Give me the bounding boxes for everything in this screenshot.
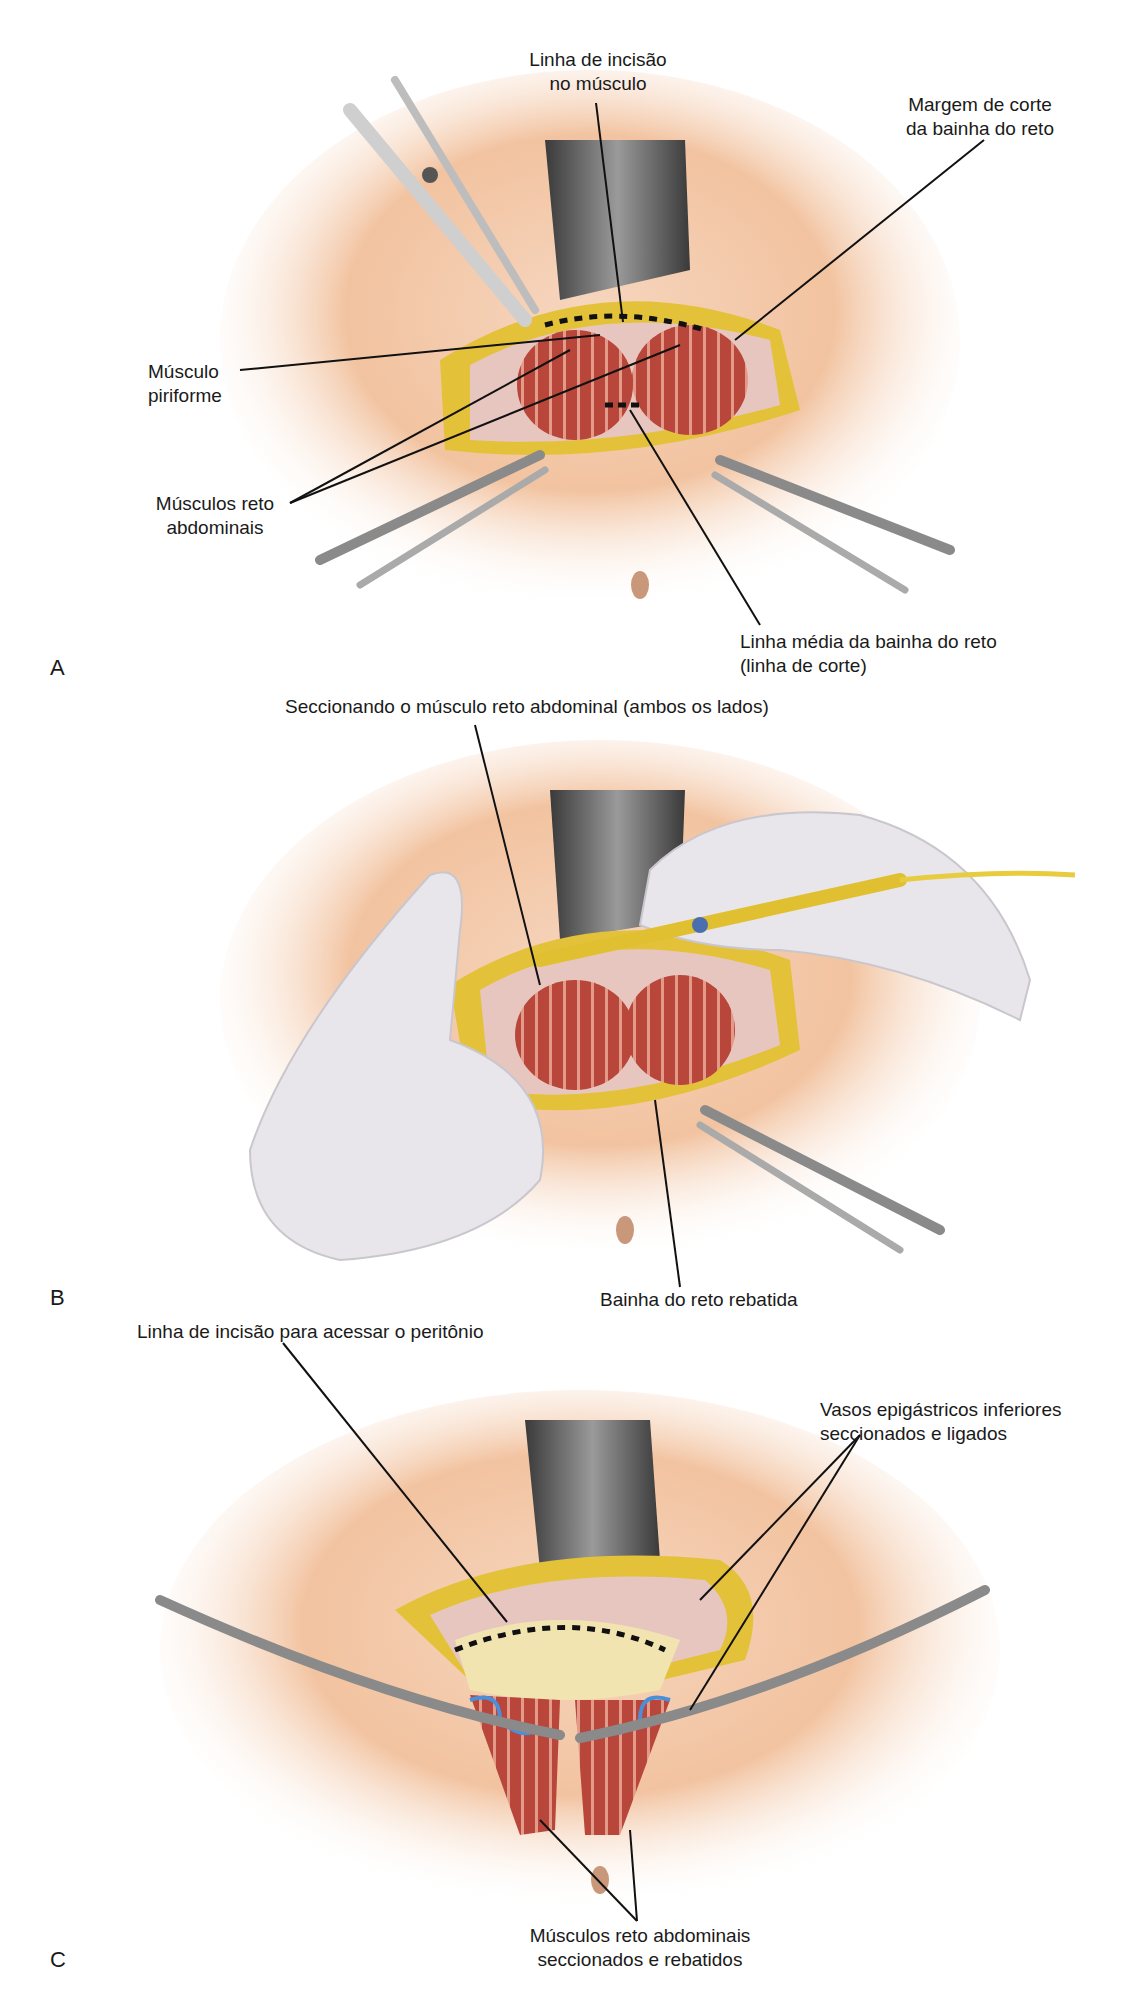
label-incision-line-muscle: Linha de incisão no músculo <box>523 48 673 96</box>
panel-b-illustration <box>220 725 1075 1287</box>
label-line: da bainha do reto <box>880 117 1080 141</box>
label-line: Margem de corte <box>880 93 1080 117</box>
label-line: Músculo <box>148 360 222 384</box>
label-line: Músculos reto <box>140 492 290 516</box>
label-line: no músculo <box>523 72 673 96</box>
label-rectus-abdominis: Músculos reto abdominais <box>140 492 290 540</box>
panel-letter-c: C <box>50 1947 66 1973</box>
label-line: (linha de corte) <box>740 654 997 678</box>
label-reflected-sheath: Bainha do reto rebatida <box>600 1288 798 1312</box>
label-line: piriforme <box>148 384 222 408</box>
label-rectus-sheath-midline: Linha média da bainha do reto (linha de … <box>740 630 997 678</box>
label-epigastric-vessels: Vasos epigástricos inferiores seccionado… <box>820 1398 1061 1446</box>
panel-letter-b: B <box>50 1285 65 1311</box>
panel-a-illustration <box>220 70 984 625</box>
label-line: seccionados e rebatidos <box>515 1948 765 1972</box>
label-line: seccionados e ligados <box>820 1422 1061 1446</box>
peritoneum <box>455 1620 680 1700</box>
label-line: Músculos reto abdominais <box>515 1924 765 1948</box>
label-line: Linha média da bainha do reto <box>740 630 997 654</box>
label-rectus-sectioned: Músculos reto abdominais seccionados e r… <box>515 1924 765 1972</box>
rectus-right <box>632 325 748 435</box>
label-piriform-muscle: Músculo piriforme <box>148 360 222 408</box>
label-peritoneum-incision: Linha de incisão para acessar o peritôni… <box>137 1320 483 1344</box>
label-rectus-sheath-cut-margin: Margem de corte da bainha do reto <box>880 93 1080 141</box>
label-line: abdominais <box>140 516 290 540</box>
rectus-left <box>517 330 633 440</box>
label-sectioning-rectus: Seccionando o músculo reto abdominal (am… <box>285 695 769 719</box>
label-line: Vasos epigástricos inferiores <box>820 1398 1061 1422</box>
label-line: Linha de incisão <box>523 48 673 72</box>
panel-letter-a: A <box>50 655 65 681</box>
surgical-illustration <box>0 0 1135 1995</box>
